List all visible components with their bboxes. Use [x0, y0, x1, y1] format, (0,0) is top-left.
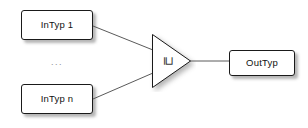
node-input-type-last-label: InTyp n — [41, 94, 74, 104]
diagram-canvas: InTyp 1 ... InTyp n ⊒ OutTyp — [0, 0, 308, 128]
edge-input-last-to-operator — [93, 73, 153, 99]
edge-input-first-to-operator — [93, 26, 153, 50]
operator-triangle-shape — [148, 30, 196, 92]
input-list-ellipsis: ... — [21, 52, 93, 72]
node-output-type-label: OutTyp — [246, 58, 278, 68]
node-input-type-first[interactable]: InTyp 1 — [21, 10, 93, 40]
node-input-type-last[interactable]: InTyp n — [21, 84, 93, 114]
operator-triangle[interactable]: ⊒ — [148, 30, 196, 92]
ellipsis-label: ... — [51, 58, 63, 67]
node-output-type[interactable]: OutTyp — [229, 50, 295, 76]
operator-triangle-outline — [153, 35, 191, 88]
node-input-type-first-label: InTyp 1 — [41, 20, 74, 30]
